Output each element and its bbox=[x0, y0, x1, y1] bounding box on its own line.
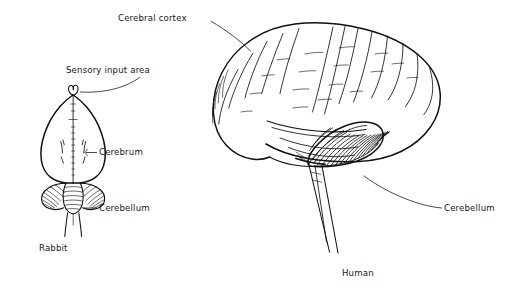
brain-comparison-figure: Cerebral cortex Sensory input area Cereb… bbox=[0, 0, 522, 289]
label-rabbit-cerebrum: Cerebrum bbox=[99, 147, 143, 157]
label-human-cerebellum: Cerebellum bbox=[444, 203, 495, 213]
label-rabbit-cerebellum: Cerebellum bbox=[99, 203, 150, 213]
label-sensory-input-area: Sensory input area bbox=[66, 65, 150, 75]
figure-background bbox=[0, 0, 522, 289]
caption-rabbit: Rabbit bbox=[39, 243, 68, 253]
caption-human: Human bbox=[342, 268, 374, 278]
label-cerebral-cortex: Cerebral cortex bbox=[118, 13, 187, 23]
